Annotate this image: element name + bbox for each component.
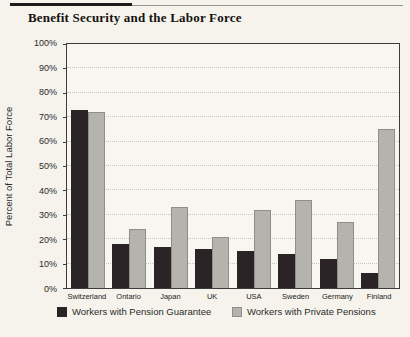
legend-label: Workers with Private Pensions bbox=[247, 306, 376, 317]
bar-groups bbox=[67, 44, 399, 288]
x-tick-label-ontario: Ontario bbox=[108, 292, 150, 302]
bar-group-ontario bbox=[109, 44, 151, 288]
legend-label: Workers with Pension Guarantee bbox=[72, 306, 211, 317]
x-tick-label-finland: Finland bbox=[358, 292, 400, 302]
private-pensions-bar-uk bbox=[212, 237, 229, 288]
y-tick-label: 40% bbox=[39, 186, 62, 196]
private-pensions-bar-ontario bbox=[129, 229, 146, 288]
plot-area bbox=[66, 43, 400, 289]
pension-guarantee-bar-finland bbox=[361, 273, 378, 288]
x-tick-label-usa: USA bbox=[233, 292, 275, 302]
bar-group-japan bbox=[150, 44, 192, 288]
top-rule-thick bbox=[10, 3, 132, 6]
legend: Workers with Pension GuaranteeWorkers wi… bbox=[57, 306, 403, 320]
private-pensions-bar-japan bbox=[171, 207, 188, 288]
y-tick-label: 10% bbox=[39, 259, 62, 269]
y-tick-label: 80% bbox=[39, 87, 62, 97]
y-axis-ticks: 0%10%20%30%40%50%60%70%80%90%100% bbox=[0, 43, 62, 289]
bar-group-sweden bbox=[275, 44, 317, 288]
x-axis-labels: SwitzerlandOntarioJapanUKUSASwedenGerman… bbox=[66, 292, 400, 302]
x-tick-label-germany: Germany bbox=[317, 292, 359, 302]
x-tick-label-uk: UK bbox=[191, 292, 233, 302]
y-tick-mark bbox=[63, 288, 67, 289]
legend-swatch-gray bbox=[232, 307, 242, 317]
pension-guarantee-bar-usa bbox=[237, 251, 254, 288]
bar-group-finland bbox=[358, 44, 400, 288]
bar-group-uk bbox=[192, 44, 234, 288]
y-tick-label: 70% bbox=[39, 112, 62, 122]
pension-guarantee-bar-sweden bbox=[278, 254, 295, 288]
pension-guarantee-bar-germany bbox=[320, 259, 337, 288]
y-tick-label: 90% bbox=[39, 63, 62, 73]
x-tick-label-japan: Japan bbox=[150, 292, 192, 302]
pension-guarantee-bar-japan bbox=[154, 247, 171, 288]
pension-guarantee-bar-switzerland bbox=[71, 110, 88, 288]
y-tick-label: 60% bbox=[39, 136, 62, 146]
legend-item-pension-guarantee: Workers with Pension Guarantee bbox=[57, 306, 211, 317]
private-pensions-bar-finland bbox=[378, 129, 395, 288]
bar-group-usa bbox=[233, 44, 275, 288]
y-tick-label: 100% bbox=[34, 38, 62, 48]
bar-group-switzerland bbox=[67, 44, 109, 288]
x-tick-label-sweden: Sweden bbox=[275, 292, 317, 302]
private-pensions-bar-usa bbox=[254, 210, 271, 288]
legend-item-private-pensions: Workers with Private Pensions bbox=[232, 306, 376, 317]
x-tick-label-switzerland: Switzerland bbox=[66, 292, 108, 302]
y-tick-label: 0% bbox=[44, 284, 62, 294]
y-tick-label: 20% bbox=[39, 235, 62, 245]
y-tick-label: 50% bbox=[39, 161, 62, 171]
chart-title: Benefit Security and the Labor Force bbox=[28, 10, 242, 26]
pension-guarantee-bar-ontario bbox=[112, 244, 129, 288]
pension-guarantee-bar-uk bbox=[195, 249, 212, 288]
private-pensions-bar-sweden bbox=[295, 200, 312, 288]
y-tick-label: 30% bbox=[39, 210, 62, 220]
bar-group-germany bbox=[316, 44, 358, 288]
private-pensions-bar-germany bbox=[337, 222, 354, 288]
private-pensions-bar-switzerland bbox=[88, 112, 105, 288]
legend-swatch-black bbox=[57, 307, 67, 317]
